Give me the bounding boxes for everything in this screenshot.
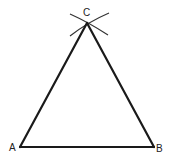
vertex-label-a: A bbox=[9, 142, 16, 153]
edge-ca bbox=[20, 23, 87, 147]
edge-bc bbox=[87, 23, 154, 147]
triangle-edges bbox=[20, 23, 154, 147]
vertex-label-b: B bbox=[156, 143, 163, 154]
triangle-diagram: A B C bbox=[0, 0, 170, 159]
vertex-label-c: C bbox=[83, 7, 90, 18]
